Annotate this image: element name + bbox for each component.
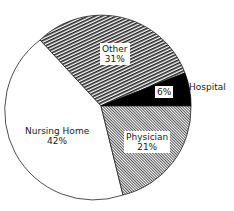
physician-name: Physician xyxy=(126,132,168,142)
hospital-pct: 6% xyxy=(157,87,171,97)
other-pct: 31% xyxy=(102,54,128,64)
label-hospital-name: Hospital xyxy=(189,82,226,92)
label-physician: Physician 21% xyxy=(124,131,170,153)
nursing-pct: 42% xyxy=(25,136,89,146)
label-hospital-pct: 6% xyxy=(155,86,173,98)
pie-chart xyxy=(0,0,234,211)
physician-pct: 21% xyxy=(126,142,168,152)
hospital-name: Hospital xyxy=(189,82,226,92)
label-other: Other 31% xyxy=(100,43,130,65)
nursing-name: Nursing Home xyxy=(25,126,89,136)
other-name: Other xyxy=(102,44,128,54)
label-nursing-home: Nursing Home 42% xyxy=(25,126,89,146)
